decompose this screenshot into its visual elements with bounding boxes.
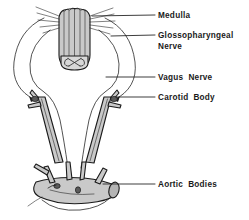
leader-glossopharyngeal [111,35,155,36]
anatomical-figure: Medulla Glossopharyngeal Nerve Vagus Ner… [0,0,249,220]
glossopharyngeal-nerve-right [105,18,135,100]
label-carotid-body: Carotid Body [158,93,215,102]
label-glossopharyngeal-nerve-line2: Nerve [158,42,182,51]
medulla-structure [59,8,90,70]
glossopharyngeal-nerve-left [14,18,44,100]
label-medulla: Medulla [158,11,190,20]
leader-medulla [92,15,155,16]
aortic-body-1 [54,184,60,189]
carotid-body-left [32,96,39,101]
label-glossopharyngeal-nerve: Glossopharyngeal [158,31,233,40]
leader-lines [92,15,155,184]
label-vagus-nerve: Vagus Nerve [158,73,213,82]
carotid-arteries [28,90,121,163]
aortic-arch-structure [28,162,121,210]
label-group: Medulla Glossopharyngeal Nerve Vagus Ner… [158,11,233,189]
aortic-body-2 [75,187,80,193]
label-aortic-bodies: Aortic Bodies [158,180,217,189]
spinal-cord-cap [61,56,88,70]
